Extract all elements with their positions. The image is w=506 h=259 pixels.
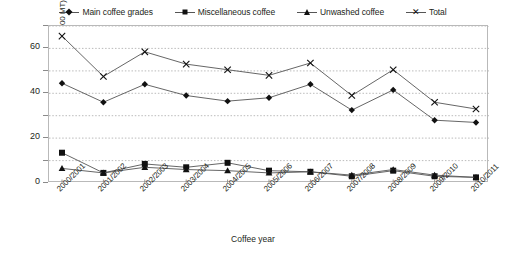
plot-area: [48, 25, 488, 182]
legend-label: Total: [429, 7, 446, 17]
data-point: [349, 92, 355, 98]
legend-item-main-coffee-grades: Main coffee grades: [59, 7, 152, 17]
y-tick-label: 40: [14, 86, 40, 96]
data-point: [100, 99, 106, 105]
legend-item-unwashed-coffee: Unwashed coffee: [297, 7, 384, 17]
data-point: [266, 95, 272, 101]
data-point: [100, 73, 106, 79]
chart-plot-svg: [49, 26, 489, 183]
data-point: [349, 107, 355, 113]
data-point: [307, 81, 313, 87]
square-marker-icon: [175, 7, 195, 17]
y-tick-label: 60: [14, 41, 40, 51]
x-axis-title: Coffee year: [0, 234, 506, 244]
data-point: [142, 81, 148, 87]
y-tick-label: 0: [14, 176, 40, 186]
data-point: [59, 33, 65, 39]
data-point: [225, 160, 231, 166]
triangle-marker-icon: [297, 7, 317, 17]
chart-container: Main coffee grades Miscellaneous coffee …: [0, 0, 506, 259]
legend-item-miscellaneous-coffee: Miscellaneous coffee: [175, 7, 275, 17]
data-point: [390, 87, 396, 93]
data-point: [59, 150, 65, 156]
data-point: [390, 67, 396, 73]
data-point: [473, 119, 479, 125]
legend-item-total: ✕ Total: [406, 7, 446, 17]
data-point: [59, 165, 66, 171]
chart-legend: Main coffee grades Miscellaneous coffee …: [0, 4, 506, 20]
legend-label: Unwashed coffee: [320, 7, 384, 17]
y-tick-label: 20: [14, 131, 40, 141]
legend-label: Main coffee grades: [82, 7, 152, 17]
legend-label: Miscellaneous coffee: [198, 7, 275, 17]
data-point: [431, 117, 437, 123]
series-main-coffee-grades: [59, 80, 479, 126]
y-tick: [43, 182, 48, 183]
data-point: [307, 60, 313, 66]
data-point: [59, 80, 65, 86]
data-point: [224, 98, 230, 104]
data-point: [142, 49, 148, 55]
cross-marker-icon: ✕: [406, 7, 426, 17]
